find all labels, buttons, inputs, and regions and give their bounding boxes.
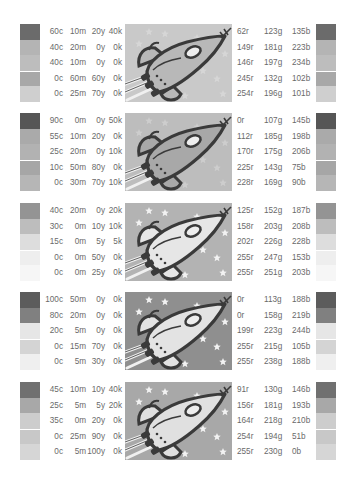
rgb-g-value: 169g (264, 175, 282, 191)
rgb-r-value: 91r (237, 382, 249, 398)
rgb-g-value: 247g (264, 250, 282, 266)
rgb-r-value: 112r (237, 129, 253, 145)
rgb-g-value: 203g (264, 219, 282, 235)
palette-block: 45c10m10y40k91r130g146b25c5m5y20k156r181… (0, 382, 357, 460)
rgb-r-value: 199r (237, 323, 253, 339)
rgb-r-value: 254r (237, 86, 253, 102)
rgb-b-value: 208b (292, 219, 310, 235)
rgb-g-value: 223g (264, 323, 282, 339)
rgb-b-value: 234b (292, 55, 310, 71)
rgb-b-value: 105b (292, 339, 310, 355)
palette-block: 90c0m0y50k0r107g145b55c10m20y0k112r185g1… (0, 113, 357, 191)
rgb-g-value: 181g (264, 398, 282, 414)
rocket-illustration (125, 113, 232, 191)
rgb-b-value: 219b (292, 308, 310, 324)
rgb-b-value: 90b (292, 175, 306, 191)
rgb-g-value: 218g (264, 413, 282, 429)
rgb-g-value: 251g (264, 265, 282, 281)
rgb-r-value: 0r (237, 292, 244, 308)
rgb-g-value: 238g (264, 354, 282, 370)
rgb-b-value: 102b (292, 71, 310, 87)
palette-block: 100c50m0y0k0r113g188b80c20m0y0k0r158g219… (0, 292, 357, 370)
rocket-icon (125, 382, 232, 460)
rgb-r-value: 62r (237, 24, 249, 40)
rgb-g-value: 113g (264, 292, 282, 308)
rgb-r-value: 164r (237, 413, 253, 429)
rgb-b-value: 228b (292, 234, 310, 250)
rgb-b-value: 153b (292, 250, 310, 266)
rgb-g-value: 130g (264, 382, 282, 398)
rgb-b-value: 198b (292, 129, 310, 145)
rgb-r-value: 146r (237, 55, 253, 71)
rocket-illustration (125, 24, 232, 102)
rgb-g-value: 196g (264, 86, 282, 102)
rgb-b-value: 101b (292, 86, 310, 102)
rgb-b-value: 135b (292, 24, 310, 40)
rgb-g-value: 107g (264, 113, 282, 129)
rgb-r-value: 170r (237, 144, 253, 160)
rgb-r-value: 228r (237, 175, 253, 191)
rgb-r-value: 255r (237, 250, 253, 266)
rgb-b-value: 193b (292, 398, 310, 414)
rgb-g-value: 123g (264, 24, 282, 40)
rocket-illustration (125, 382, 232, 460)
rgb-r-value: 158r (237, 219, 253, 235)
rgb-b-value: 244b (292, 323, 310, 339)
rgb-b-value: 146b (292, 382, 310, 398)
rocket-illustration (125, 203, 232, 281)
rgb-b-value: 187b (292, 203, 310, 219)
rgb-r-value: 254r (237, 429, 253, 445)
rgb-b-value: 75b (292, 160, 306, 176)
rgb-b-value: 188b (292, 292, 310, 308)
rgb-r-value: 245r (237, 71, 253, 87)
rgb-r-value: 255r (237, 354, 253, 370)
rgb-r-value: 255r (237, 265, 253, 281)
rgb-r-value: 156r (237, 398, 253, 414)
rocket-icon (125, 113, 232, 191)
rgb-g-value: 226g (264, 234, 282, 250)
rgb-g-value: 197g (264, 55, 282, 71)
rgb-g-value: 230g (264, 444, 282, 460)
palette-block: 60c10m20y40k62r123g135b40c20m0y0k149r181… (0, 24, 357, 102)
rgb-g-value: 143g (264, 160, 282, 176)
rgb-b-value: 51b (292, 429, 306, 445)
rgb-r-value: 255r (237, 444, 253, 460)
rocket-icon (125, 24, 232, 102)
rgb-b-value: 0b (292, 444, 301, 460)
rgb-b-value: 203b (292, 265, 310, 281)
rgb-g-value: 175g (264, 144, 282, 160)
rgb-b-value: 206b (292, 144, 310, 160)
rgb-r-value: 202r (237, 234, 253, 250)
palette-block: 40c20m0y20k125r152g187b30c0m10y10k158r20… (0, 203, 357, 281)
rgb-g-value: 181g (264, 40, 282, 56)
rgb-g-value: 158g (264, 308, 282, 324)
rgb-b-value: 188b (292, 354, 310, 370)
rgb-g-value: 152g (264, 203, 282, 219)
rgb-g-value: 215g (264, 339, 282, 355)
rgb-b-value: 210b (292, 413, 310, 429)
rgb-r-value: 255r (237, 339, 253, 355)
rocket-illustration (125, 292, 232, 370)
rgb-r-value: 125r (237, 203, 253, 219)
rgb-b-value: 223b (292, 40, 310, 56)
rocket-icon (125, 203, 232, 281)
rgb-g-value: 194g (264, 429, 282, 445)
rgb-g-value: 185g (264, 129, 282, 145)
rocket-icon (125, 292, 232, 370)
rgb-r-value: 225r (237, 160, 253, 176)
rgb-b-value: 145b (292, 113, 310, 129)
rgb-r-value: 0r (237, 308, 244, 324)
rgb-r-value: 149r (237, 40, 253, 56)
rgb-r-value: 0r (237, 113, 244, 129)
rgb-g-value: 132g (264, 71, 282, 87)
